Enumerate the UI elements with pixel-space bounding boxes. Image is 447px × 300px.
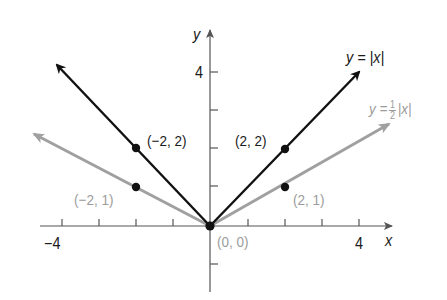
x-tick-label-4: 4 [355, 236, 363, 252]
point-neg2-1 [132, 183, 140, 191]
y-axis [210, 30, 218, 292]
point-2-1 [281, 183, 289, 191]
label-point-neg2-2: (−2, 2) [147, 133, 186, 148]
series-half-abs-x [34, 124, 389, 226]
label-point-neg2-1: (−2, 1) [74, 192, 113, 207]
x-tick-label-neg4: −4 [44, 236, 60, 252]
label-point-2-2: (2, 2) [235, 133, 267, 148]
fraction-one-half: 12 [389, 100, 396, 121]
point-2-2 [281, 145, 289, 153]
point-neg2-2 [132, 144, 140, 152]
equation-half-abs-x: y =12|x| [369, 100, 412, 121]
x-axis-label: x [385, 233, 392, 249]
point-origin [205, 221, 214, 230]
y-axis-label: y [193, 27, 200, 43]
graph-canvas [0, 0, 447, 300]
equation-abs-x-text: y = |x| [346, 49, 384, 66]
label-point-2-1: (2, 1) [293, 192, 325, 207]
y-tick-label-4: 4 [195, 65, 203, 81]
label-origin: (0, 0) [217, 234, 249, 249]
equation-abs-x: y = |x| [346, 50, 384, 66]
